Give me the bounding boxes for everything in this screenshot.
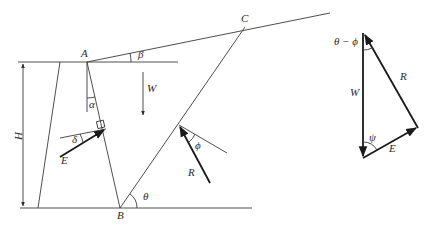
wall-back-face xyxy=(87,62,120,208)
point-C-label: C xyxy=(241,12,249,24)
weight-force: W xyxy=(143,72,157,115)
height-label: H xyxy=(12,131,24,141)
theta-minus-phi-label: θ − ϕ xyxy=(334,35,358,47)
point-B-label: B xyxy=(117,209,124,221)
earth-pressure-label: E xyxy=(60,154,68,166)
theta-arc xyxy=(130,194,137,208)
point-A-label: A xyxy=(80,47,88,59)
force-triangle: θ − ϕ W R ψ E xyxy=(334,33,418,158)
psi-label: ψ xyxy=(369,131,376,143)
angle-beta: β xyxy=(130,48,144,62)
wall-front-face xyxy=(38,62,60,208)
wedge-diagram: β α A B C H W δ E θ ϕ R xyxy=(0,0,429,227)
triangle-reaction-vector xyxy=(365,35,418,128)
beta-label: β xyxy=(137,48,144,60)
angle-alpha: α xyxy=(87,62,95,112)
reaction-arrow xyxy=(180,127,210,183)
reaction-force: ϕ R xyxy=(179,125,227,183)
backfill-surface xyxy=(87,13,330,62)
triangle-earth-pressure-label: E xyxy=(388,142,396,154)
reaction-label: R xyxy=(187,166,195,178)
theta-label: θ xyxy=(143,190,149,202)
psi-arc xyxy=(363,142,377,150)
delta-label: δ xyxy=(72,133,78,145)
alpha-label: α xyxy=(89,98,95,110)
earth-pressure-force: δ E xyxy=(60,120,106,166)
theta-minus-phi-arc xyxy=(363,48,372,50)
angle-theta: θ xyxy=(130,190,149,208)
weight-label: W xyxy=(147,82,157,94)
triangle-weight-label: W xyxy=(350,86,360,98)
wall-geometry xyxy=(18,13,330,208)
delta-arc xyxy=(80,134,83,143)
phi-label: ϕ xyxy=(195,139,201,151)
beta-arc xyxy=(130,53,131,62)
triangle-reaction-label: R xyxy=(399,70,407,82)
height-dimension: H xyxy=(12,64,24,206)
